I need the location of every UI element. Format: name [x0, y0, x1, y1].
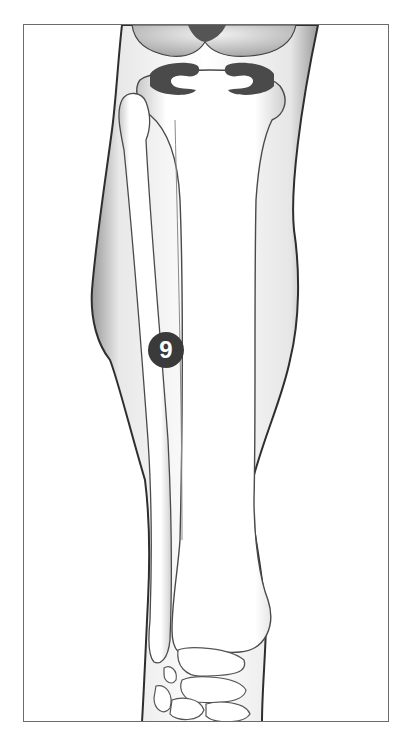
callout-marker-9[interactable]: 9: [148, 332, 184, 368]
leg-bones-illustration: [0, 0, 412, 740]
